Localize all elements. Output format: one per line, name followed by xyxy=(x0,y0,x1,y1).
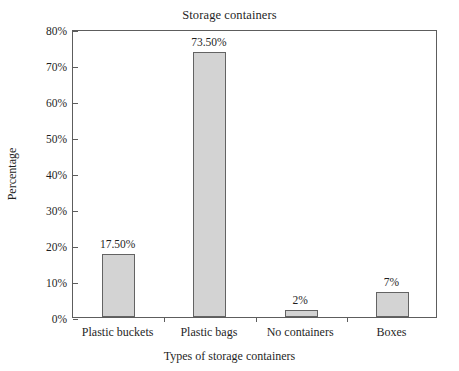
y-tick-label: 10% xyxy=(46,277,67,289)
y-tick-label: 70% xyxy=(46,61,67,73)
y-axis-title: Percentage xyxy=(5,148,20,201)
x-axis-title: Types of storage containers xyxy=(0,349,459,364)
y-tick-mark xyxy=(73,211,78,212)
y-tick-label: 80% xyxy=(46,25,67,37)
bar xyxy=(376,292,409,317)
y-tick-mark xyxy=(73,31,78,32)
y-tick-label: 30% xyxy=(46,205,67,217)
y-tick-mark xyxy=(73,319,78,320)
x-tick-mark xyxy=(256,317,257,322)
x-tick-mark xyxy=(347,317,348,322)
bar-value-label: 7% xyxy=(384,276,399,288)
bar-value-label: 2% xyxy=(292,294,307,306)
y-tick-mark xyxy=(73,283,78,284)
y-tick-mark xyxy=(73,139,78,140)
x-tick-label: Plastic buckets xyxy=(82,325,154,340)
plot-area: 0%10%20%30%40%50%60%70%80% xyxy=(72,30,437,318)
y-tick-label: 40% xyxy=(46,169,67,181)
x-tick-label: No containers xyxy=(267,325,334,340)
chart-title: Storage containers xyxy=(0,8,459,23)
y-tick-mark xyxy=(73,247,78,248)
bar xyxy=(102,254,135,317)
x-tick-label: Plastic bags xyxy=(180,325,237,340)
bar xyxy=(285,310,318,317)
bar-value-label: 73.50% xyxy=(191,36,226,48)
y-tick-mark xyxy=(73,175,78,176)
y-tick-label: 20% xyxy=(46,241,67,253)
y-tick-mark xyxy=(73,67,78,68)
y-tick-label: 60% xyxy=(46,97,67,109)
y-tick-label: 50% xyxy=(46,133,67,145)
chart-canvas: Storage containers Percentage 0%10%20%30… xyxy=(0,0,459,371)
bar xyxy=(193,52,226,317)
y-tick-label: 0% xyxy=(52,313,67,325)
x-tick-mark xyxy=(164,317,165,322)
bar-value-label: 17.50% xyxy=(100,238,135,250)
y-tick-mark xyxy=(73,103,78,104)
x-tick-label: Boxes xyxy=(376,325,406,340)
